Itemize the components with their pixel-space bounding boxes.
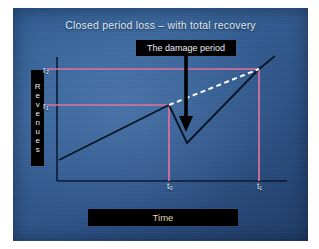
- slide-canvas: Closed period loss – with total recovery…: [13, 8, 308, 241]
- y-tick-label-r2: r₂: [43, 65, 49, 75]
- x-axis-title-label: Time: [88, 209, 238, 226]
- page-title: Closed period loss – with total recovery: [13, 19, 308, 31]
- y-tick-label-r1: r₁: [43, 101, 49, 111]
- y-axis-title-label: Revenues: [33, 82, 43, 154]
- series-counterfactual-revenues: [169, 69, 259, 105]
- x-tick-label-t0: t₀: [167, 181, 173, 191]
- slide-frame: Closed period loss – with total recovery…: [0, 0, 319, 249]
- y-axis-title-box: Revenues: [31, 70, 44, 166]
- x-tick-label-t1: t₁: [257, 181, 262, 191]
- series-actual-revenues: [59, 56, 275, 160]
- damage-period-callout: The damage period: [136, 40, 236, 56]
